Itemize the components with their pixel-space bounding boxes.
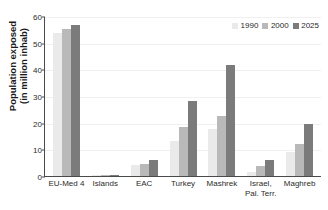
bar (247, 172, 256, 176)
bar (208, 129, 217, 176)
x-axis-tick-label: Mashrek (207, 179, 238, 189)
bar (304, 124, 313, 176)
bar-groups: EU-Med 4IslandsEACTurkeyMashrekIsrael,Pa… (45, 17, 321, 176)
y-axis-title-line2: (in million inhab) (18, 1, 29, 131)
bar (53, 33, 62, 176)
bar-group: Israel,Pal. Terr. (241, 17, 280, 176)
bar (188, 101, 197, 176)
bar (256, 166, 265, 176)
y-axis-tick-label: 10 (33, 146, 42, 155)
x-axis-tick-label: Maghreb (284, 179, 316, 189)
bar-group: EU-Med 4 (47, 17, 86, 176)
bar (226, 65, 235, 176)
bar (101, 175, 110, 176)
x-axis-tick-label: EAC (136, 179, 152, 189)
y-axis-title-line1: Population exposed (7, 1, 18, 131)
x-axis-tick-label: Israel,Pal. Terr. (245, 179, 276, 198)
x-axis-tick-label: Turkey (171, 179, 195, 189)
bar (149, 160, 158, 176)
plot-area: 0102030405060 EU-Med 4IslandsEACTurkeyMa… (44, 17, 321, 177)
bar-group: Mashrek (202, 17, 241, 176)
bar (140, 164, 149, 176)
bar (179, 127, 188, 176)
bar (62, 29, 71, 176)
bar (295, 144, 304, 176)
bar-group: Turkey (164, 17, 203, 176)
bar (286, 152, 295, 176)
bar-group: Maghreb (280, 17, 319, 176)
bar-group: EAC (125, 17, 164, 176)
y-axis-tick-label: 60 (33, 13, 42, 22)
y-axis-tick-label: 20 (33, 119, 42, 128)
x-axis-tick-label: Islands (93, 179, 118, 189)
y-axis-tick-label: 30 (33, 93, 42, 102)
bar (92, 175, 101, 176)
y-axis-title: Population exposed (in million inhab) (7, 1, 29, 131)
bar (131, 165, 140, 176)
bar (170, 141, 179, 176)
y-axis-tick-mark (42, 177, 45, 178)
bar (71, 25, 80, 176)
bar (265, 160, 274, 176)
x-axis-tick-label: EU-Med 4 (48, 179, 84, 189)
bar-group: Islands (86, 17, 125, 176)
bar (217, 116, 226, 176)
bar (110, 175, 119, 176)
bar-chart: Population exposed (in million inhab) 19… (0, 0, 328, 210)
y-axis-tick-label: 40 (33, 66, 42, 75)
y-axis-tick-label: 50 (33, 39, 42, 48)
